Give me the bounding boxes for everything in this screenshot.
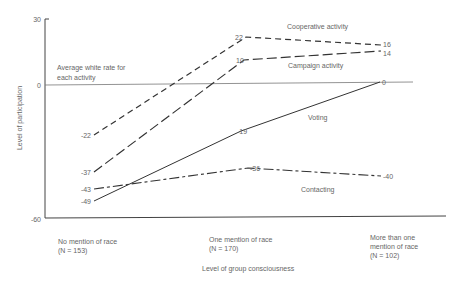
series-cooperative-activity	[94, 37, 381, 135]
y-tick-label-neg60: -60	[31, 216, 41, 223]
x-category-3-line3: (N = 102)	[370, 252, 399, 260]
x-category-3-line2: mention of race	[370, 243, 418, 250]
value-cont-3: -40	[383, 173, 393, 180]
value-cont-2: -36	[250, 165, 260, 172]
series-label-cooperative: Cooperative activity	[287, 23, 349, 31]
value-coop-1: -22	[81, 132, 91, 139]
series-label-voting: Voting	[308, 114, 328, 122]
y-tick-label-0: 0	[37, 82, 41, 89]
value-camp-3: 14	[383, 50, 391, 57]
x-category-2-line2: (N = 170)	[209, 245, 238, 253]
value-vote-1: -49	[81, 198, 91, 205]
value-coop-2: 22	[235, 34, 243, 41]
x-category-3-line1: More than one	[370, 234, 415, 241]
x-axis-label: Level of group consciousness	[202, 265, 295, 273]
value-coop-3: 16	[383, 41, 391, 48]
series-label-contacting: Contacting	[301, 186, 335, 194]
reference-label-line1: Average white rate for	[57, 64, 126, 72]
x-category-2-line1: One mention of race	[209, 236, 273, 243]
value-camp-1: -37	[81, 169, 91, 176]
reference-line-zero	[45, 82, 413, 85]
value-vote-3: 0	[382, 79, 386, 86]
line-chart: 30 0 -60 Level of participation Average …	[0, 0, 459, 282]
series-contacting	[94, 168, 381, 189]
y-axis-label: Level of participation	[16, 86, 24, 150]
x-axis	[45, 216, 446, 218]
x-category-1-line1: No mention of race	[58, 238, 117, 245]
value-vote-2: -19	[237, 128, 247, 135]
value-camp-2: 10	[236, 57, 244, 64]
reference-label-line2: each activity	[57, 74, 96, 82]
series-campaign-activity	[94, 51, 381, 172]
value-cont-1: -43	[81, 186, 91, 193]
x-category-1-line2: (N = 153)	[58, 247, 87, 255]
series-label-campaign: Campaign activity	[288, 62, 344, 70]
y-tick-label-30: 30	[33, 16, 41, 23]
